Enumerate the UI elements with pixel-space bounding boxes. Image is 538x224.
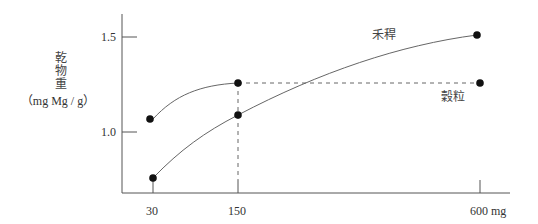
y-label-unit: （mg Mg / g） (21, 94, 95, 108)
y-label-char-1: 乾 (55, 51, 67, 65)
point-grain-150 (234, 79, 242, 87)
series-label-straw: 禾稈 (372, 28, 396, 42)
y-label-char-3: 重 (55, 77, 67, 91)
x-tick-label-150: 150 (228, 204, 246, 218)
x-tick-label-600: 600 mg (470, 204, 506, 218)
x-tick-label-30: 30 (146, 204, 158, 218)
point-grain-30 (146, 115, 154, 123)
y-label-char-2: 物 (55, 64, 67, 78)
point-straw-150 (234, 111, 242, 119)
point-grain-600 (476, 79, 484, 87)
point-straw-600 (473, 31, 481, 39)
y-tick-label-1-5: 1.5 (101, 30, 116, 44)
chart: 1.5 1.0 30 150 600 mg 乾 物 重 （mg Mg / g） … (0, 0, 538, 224)
y-tick-label-1-0: 1.0 (101, 125, 116, 139)
series-straw-curve (153, 35, 477, 178)
point-straw-30 (149, 174, 157, 182)
series-grain-curve (153, 83, 238, 119)
series-label-grain: 穀粒 (441, 89, 465, 104)
